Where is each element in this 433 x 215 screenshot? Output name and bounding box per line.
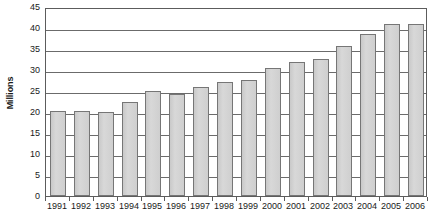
x-axis-tick-2004: 2004 <box>355 201 379 212</box>
bar-1991[interactable] <box>50 111 66 196</box>
y-axis-tick-label: 45 <box>18 3 40 12</box>
bar-2000[interactable] <box>265 68 281 196</box>
y-axis-tick-label: 25 <box>18 87 40 96</box>
bar-1992[interactable] <box>74 111 90 196</box>
x-axis-tick-labels: 1991199219931994199519961997199819992000… <box>45 201 427 215</box>
y-axis-tick-15: 15 <box>18 129 40 138</box>
y-axis-tick-label: 5 <box>18 171 40 180</box>
bar-2002[interactable] <box>313 59 329 196</box>
y-axis-tick-40: 40 <box>18 24 40 33</box>
x-axis-tick-1993: 1993 <box>93 201 117 212</box>
y-axis-tick-10: 10 <box>18 150 40 159</box>
x-axis-tick-1994: 1994 <box>117 201 141 212</box>
y-axis-tick-label: 35 <box>18 45 40 54</box>
x-axis-tick-1999: 1999 <box>236 201 260 212</box>
bar-1999[interactable] <box>241 80 257 196</box>
bars-layer <box>46 9 426 196</box>
x-axis-tick-2001: 2001 <box>284 201 308 212</box>
y-axis-tick-0: 0 <box>18 192 40 201</box>
x-axis-tick-2005: 2005 <box>379 201 403 212</box>
y-axis-tick-45: 45 <box>18 3 40 12</box>
y-axis-tick-35: 35 <box>18 45 40 54</box>
y-axis-title: Millions <box>5 61 15 125</box>
x-axis-tick-2006: 2006 <box>403 201 427 212</box>
bar-1994[interactable] <box>122 102 138 196</box>
bar-1997[interactable] <box>193 87 209 196</box>
y-axis-tick-label: 0 <box>18 192 40 201</box>
y-axis-tick-5: 5 <box>18 171 40 180</box>
bar-2006[interactable] <box>408 24 424 196</box>
bar-2003[interactable] <box>336 46 352 196</box>
bar-2004[interactable] <box>360 34 376 196</box>
y-axis-tick-label: 30 <box>18 66 40 75</box>
y-axis-tick-label: 15 <box>18 129 40 138</box>
y-axis-tick-25: 25 <box>18 87 40 96</box>
y-axis-tick-20: 20 <box>18 108 40 117</box>
bar-1995[interactable] <box>145 91 161 196</box>
x-axis-tick-mark <box>427 197 428 201</box>
bar-1993[interactable] <box>98 112 114 196</box>
x-axis-tick-2002: 2002 <box>308 201 332 212</box>
x-axis-tick-1991: 1991 <box>45 201 69 212</box>
x-axis-tick-2000: 2000 <box>260 201 284 212</box>
y-axis-tick-30: 30 <box>18 66 40 75</box>
bar-2001[interactable] <box>289 62 305 196</box>
x-axis-tick-1995: 1995 <box>140 201 164 212</box>
bar-chart: Millions 051015202530354045 199119921993… <box>0 0 433 215</box>
plot-area <box>45 8 427 197</box>
x-axis-tick-1996: 1996 <box>164 201 188 212</box>
x-axis-tick-1992: 1992 <box>69 201 93 212</box>
y-axis-tick-labels: 051015202530354045 <box>18 0 40 215</box>
y-axis-tick-label: 20 <box>18 108 40 117</box>
bar-2005[interactable] <box>384 24 400 196</box>
x-axis-tick-2003: 2003 <box>331 201 355 212</box>
x-axis-tick-1997: 1997 <box>188 201 212 212</box>
bar-1998[interactable] <box>217 82 233 196</box>
x-axis-tick-1998: 1998 <box>212 201 236 212</box>
y-axis-tick-label: 40 <box>18 24 40 33</box>
y-axis-tick-label: 10 <box>18 150 40 159</box>
bar-1996[interactable] <box>169 94 185 196</box>
